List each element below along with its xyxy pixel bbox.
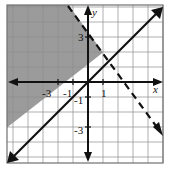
x-tick-label-neg3: -3 <box>42 87 52 99</box>
x-axis-label: x <box>152 83 158 95</box>
x-tick-label-pos1: 1 <box>101 87 107 99</box>
x-tick-label-neg1: -1 <box>63 87 72 99</box>
y-axis-label: y <box>91 6 97 18</box>
coordinate-plane: -3 -1 1 3 -1 -3 x y <box>0 0 170 169</box>
graph-figure: -3 -1 1 3 -1 -3 x y <box>0 0 170 169</box>
y-tick-label-neg1: -1 <box>74 94 83 106</box>
y-tick-label-pos3: 3 <box>78 31 84 43</box>
y-tick-label-neg3: -3 <box>74 124 84 136</box>
